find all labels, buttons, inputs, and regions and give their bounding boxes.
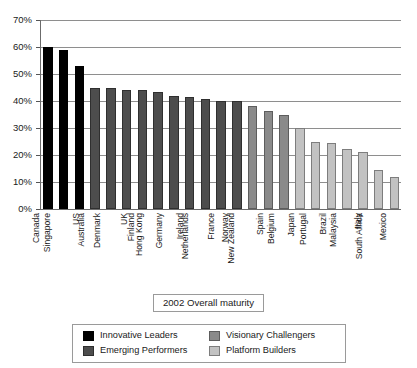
x-axis-category-label: Hong Kong [135, 213, 144, 256]
bar [43, 47, 53, 209]
x-axis-category-label: Malaysia [329, 213, 338, 247]
legend-swatch [83, 331, 94, 341]
bar [374, 170, 384, 209]
bar [75, 66, 85, 209]
x-axis-category-label: Netherlands [181, 213, 190, 259]
bar-chart: 0%10%20%30%40%50%60%70% CanadaSingaporeU… [0, 0, 417, 368]
x-axis-category-label: Spain [256, 213, 265, 235]
legend-swatch [83, 346, 94, 356]
legend-label: Innovative Leaders [100, 330, 178, 341]
legend-label: Visionary Challengers [226, 330, 315, 341]
x-axis-category-slot: Mexico [389, 211, 399, 287]
bar [279, 115, 289, 209]
bar [390, 177, 400, 209]
x-axis-category-slot: Singapore [58, 211, 68, 287]
x-axis-category-label: Mexico [380, 213, 389, 240]
x-axis-category-label: Belgium [267, 213, 276, 244]
bar [138, 90, 148, 209]
y-axis-tick-label: 10% [13, 177, 32, 187]
x-axis-category-label: Portugal [298, 213, 307, 245]
bar [122, 90, 132, 209]
bar [169, 96, 179, 209]
legend-swatch [209, 331, 220, 341]
bar [248, 106, 258, 209]
bar [264, 111, 274, 209]
x-axis-category-label: Australia [77, 213, 86, 246]
x-axis-category-label: South Africa [354, 213, 363, 259]
x-axis-title-text: 2002 Overall maturity [153, 294, 264, 312]
x-axis-category-label: Japan [287, 213, 296, 236]
legend-item: Visionary Challengers [209, 330, 335, 341]
bar [358, 152, 368, 209]
bar [216, 101, 226, 209]
bar [201, 99, 211, 209]
y-axis: 0%10%20%30%40%50%60%70% [0, 0, 36, 215]
legend-item: Platform Builders [209, 345, 335, 356]
plot-region: 0%10%20%30%40%50%60%70% [0, 0, 417, 215]
y-axis-tick-label: 50% [13, 69, 32, 79]
x-axis-category-label: Singapore [43, 213, 52, 252]
legend-grid: Innovative LeadersVisionary ChallengersE… [73, 330, 345, 356]
x-axis-category-label: Canada [32, 213, 41, 243]
legend-label: Emerging Performers [100, 345, 187, 356]
bar [295, 128, 305, 209]
plot-area [40, 20, 401, 210]
bar [342, 149, 352, 209]
legend-item: Innovative Leaders [83, 330, 209, 341]
x-axis-category-label: Denmark [92, 213, 101, 248]
bar [90, 88, 100, 210]
y-axis-tick-label: 70% [13, 15, 32, 25]
legend: Innovative LeadersVisionary ChallengersE… [72, 324, 346, 363]
x-axis-title: 2002 Overall maturity [0, 292, 417, 312]
bar [311, 142, 321, 210]
bar [59, 50, 69, 209]
x-axis-category-label: Germany [155, 213, 164, 248]
y-axis-tick-label: 0% [18, 204, 32, 214]
y-axis-tick-label: 40% [13, 96, 32, 106]
legend-item: Emerging Performers [83, 345, 209, 356]
bar [327, 143, 337, 209]
x-axis-category-labels: CanadaSingaporeUSAustraliaDenmarkUKFinla… [40, 211, 400, 287]
bar [232, 101, 242, 209]
x-axis-category-slot: Denmark [105, 211, 115, 287]
bar [106, 88, 116, 210]
x-axis-category-label: New Zealand [226, 213, 235, 264]
x-axis-category-label: France [207, 213, 216, 240]
y-axis-tick-label: 30% [13, 123, 32, 133]
bar [185, 97, 195, 209]
bars-layer [41, 20, 401, 209]
y-axis-tick-label: 20% [13, 150, 32, 160]
legend-label: Platform Builders [226, 345, 296, 356]
y-axis-tick-label: 60% [13, 42, 32, 52]
bar [153, 92, 163, 209]
x-axis-category-slot: Malaysia [341, 211, 351, 287]
legend-swatch [209, 346, 220, 356]
